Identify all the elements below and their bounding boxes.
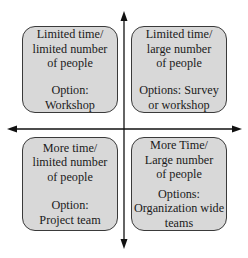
option-line: Option: bbox=[51, 83, 88, 98]
condition-line: Limited time/ bbox=[146, 27, 213, 42]
arrow-left-icon bbox=[7, 126, 17, 133]
condition-line: More time/ bbox=[43, 141, 98, 156]
option-line: Workshop bbox=[45, 98, 95, 113]
arrow-down-icon bbox=[121, 239, 128, 249]
condition-line: limited number bbox=[33, 155, 108, 170]
option-line: Organization wide bbox=[134, 201, 224, 216]
option-line: Options: bbox=[158, 187, 200, 202]
quadrant-bottom-right: More Time/ Large number of people Option… bbox=[131, 137, 227, 231]
quadrant-top-right: Limited time/ large number of people Opt… bbox=[131, 26, 227, 113]
option-line: Option: bbox=[51, 198, 88, 213]
condition-line: More Time/ bbox=[150, 138, 208, 153]
arrow-right-icon bbox=[232, 126, 242, 133]
quadrant-bottom-left: More time/ limited number of people Opti… bbox=[22, 137, 118, 231]
condition-line: limited number bbox=[33, 42, 108, 57]
vertical-axis bbox=[121, 11, 128, 249]
condition-line: of people bbox=[47, 170, 93, 185]
option-line: teams bbox=[165, 216, 193, 231]
option-line: Options: Survey bbox=[139, 83, 219, 98]
option-line: Project team bbox=[39, 213, 100, 228]
condition-line: of people bbox=[47, 56, 93, 71]
condition-line: of people bbox=[156, 167, 202, 182]
condition-line: Large number bbox=[145, 153, 213, 168]
option-line: or workshop bbox=[148, 98, 209, 113]
condition-line: large number bbox=[147, 42, 211, 57]
quadrant-top-left: Limited time/ limited number of people O… bbox=[22, 26, 118, 113]
condition-line: Limited time/ bbox=[37, 27, 104, 42]
arrow-up-icon bbox=[121, 11, 128, 21]
condition-line: of people bbox=[156, 56, 202, 71]
